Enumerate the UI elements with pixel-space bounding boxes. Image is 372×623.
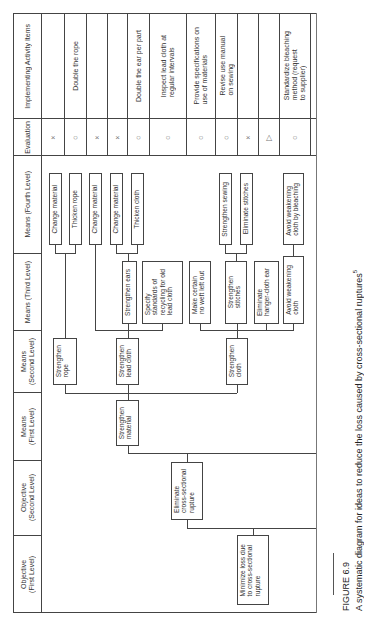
node-means-3-strengthen-stitches: Strengthen stitches [225,261,247,324]
node-objective-1: Minimize loss due to cross-sectional rup… [237,535,269,605]
evaluation-cell: × [87,119,107,155]
connector [187,520,188,528]
connector [137,245,138,253]
evaluation-cell: ○ [128,119,149,155]
figure-caption: FIGURE 6.9 A systematic diagram for idea… [327,0,367,623]
activity-cell: Double the ear per part [128,14,149,118]
activity-cell [87,14,107,118]
header-means-2: Means (Second Level) [14,331,41,392]
activity-cell [42,14,64,118]
evaluation-cell: × [238,119,258,155]
node-label: Eliminate stitches [242,183,249,234]
activity-text: Standardize bleaching method (request to… [283,31,307,100]
node-means-4-change-material: Change material [110,173,123,245]
node-label: Strengthen ears [124,269,131,316]
evaluation-cell: ○ [216,119,237,155]
header-means-4-label: Means (Fourth Level) [24,171,32,238]
evaluation-cell: ○ [65,119,86,155]
node-label: Specify standards of recycling for old l… [144,269,174,315]
node-label: Eliminate hanger-cloth ear [256,268,271,316]
evaluation-cell: ○ [280,119,310,155]
connector [75,245,76,253]
connector [128,385,129,400]
header-means-4: Means (Fourth Level) [14,156,41,253]
header-objective-2: Objective (Second Level) [14,461,41,535]
header-means-3-label: Means (Third Level) [24,261,32,323]
node-means-4-avoid-weakening-by-bleaching: Avoid weakening cloth by bleaching [283,173,304,245]
caption-text: A systematic diagram for ideas to reduce… [354,273,364,611]
connector [65,385,66,393]
node-label: Strengthen lead cloth [118,345,133,377]
activity-text: Double the ear per part [135,30,143,102]
header-activity-label: Implementing Activity Items [24,24,32,109]
connector [266,324,267,330]
connector [187,453,188,462]
node-means-4-change-material: Change material [89,173,102,245]
header-objective-1: Objective (First Level) [14,536,41,612]
header-activity: Implementing Activity Items [14,14,41,118]
node-means-3-avoid-weakening-cloth: Avoid weakening cloth [283,256,304,324]
connector [128,253,129,261]
node-label: Avoid weakening cloth by bleaching [285,183,300,236]
connector [236,253,237,261]
connector [293,245,294,256]
activity-cell: Inspect lead cloth at regular intervals [150,14,186,118]
node-label: Avoid weakening cloth [285,265,300,315]
node-objective-2: Eliminate cross-sectional rupture [171,462,203,520]
header-means-3: Means (Third Level) [14,254,41,330]
node-label: Strengthen stitches [227,276,242,308]
figure-caption-text: A systematic diagram for ideas to reduce… [352,270,364,611]
node-label: Make certain no weft left out [191,271,206,314]
activity-cell: Provide specifications on use of materia… [187,14,215,118]
evaluation-cell: ○ [187,119,215,155]
activity-cell [259,14,279,118]
header-means-1: Means (First Level) [14,393,41,460]
connector [55,253,76,254]
node-label: Strengthen sewing [221,182,228,237]
node-means-4-eliminate-stitches: Eliminate stitches [240,173,253,245]
activity-cell: Revise use manual on sewing [216,14,237,118]
activity-text: Revise use manual on sewing [219,36,235,96]
connector [225,245,226,253]
caption-superscript: 5 [352,270,358,273]
node-label: Strengthen material [118,407,133,439]
node-means-3-specify-standards: Specify standards of recycling for old l… [142,261,183,324]
node-means-3-make-certain: Make certain no weft left out [189,261,211,324]
activity-cell [238,14,258,118]
node-means-4-strengthen-sewing: Strengthen sewing [219,173,232,245]
node-means-2-strengthen-lead-cloth: Strengthen lead cloth [116,338,139,385]
node-means-2-strengthen-rope: Strengthen rope [53,338,77,385]
activity-cell: Standardize bleaching method (request to… [280,14,310,118]
row-sep [310,13,311,155]
connector [116,253,138,254]
activity-text: Provide specifications on use of materia… [193,27,209,104]
connector [293,324,294,330]
activity-cell: Double the rope [65,14,86,118]
node-label: Change material [51,185,58,233]
node-label: Strengthen cloth [228,345,243,377]
evaluation-cell: ○ [150,119,186,155]
connector [95,330,163,331]
node-label: Thicken cloth [133,190,140,229]
node-label: Change material [112,185,119,233]
header-objective-2-label: Objective (Second Level) [20,474,36,521]
sep-evaluation-means4 [13,155,316,156]
figure-number: FIGURE 6.9 [341,562,351,611]
connector [128,446,129,453]
connector [162,324,163,330]
node-label: Strengthen rope [55,345,70,377]
caption-rule [333,553,334,595]
connector [55,245,56,253]
node-means-4-thicken-rope: Thicken rope [69,173,82,245]
node-means-4-thicken-cloth: Thicken cloth [131,173,144,245]
connector [128,453,316,454]
evaluation-cell: × [42,119,64,155]
connector [65,393,237,394]
connector [253,528,254,535]
evaluation-cell: △ [259,119,279,155]
header-means-2-label: Means (Second Level) [20,338,36,385]
header-evaluation: Evaluation [14,119,41,155]
node-means-3-strengthen-ears: Strengthen ears [122,261,137,324]
connector [128,324,129,338]
connector [187,528,316,529]
